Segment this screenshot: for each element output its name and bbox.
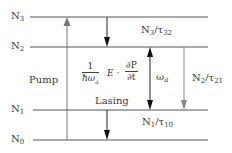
formula-fraction-1: 1 ħωa [82, 62, 99, 85]
formula-e-term: E · [107, 69, 119, 78]
level-label-n3: N3 [11, 11, 24, 23]
level-label-n1: N1 [11, 104, 24, 116]
level-label-n0: N0 [11, 134, 24, 146]
level-label-n2: N2 [11, 41, 24, 53]
formula-fraction-2: ∂P ∂t [125, 61, 138, 82]
decay-arrow-n2-n1 [181, 47, 187, 110]
omega-label: ωa [156, 72, 168, 84]
rate-label-n2-n1: N2/τ21 [192, 73, 223, 85]
rate-label-n3-n2: N3/τ32 [141, 25, 172, 37]
decay-arrow-n3-n2 [104, 17, 110, 47]
pump-arrow [64, 17, 71, 140]
lasing-double-arrow [147, 47, 153, 110]
rate-label-n1-n0: N1/τ10 [142, 117, 173, 129]
pump-label: Pump [29, 75, 58, 85]
decay-arrow-n1-n0 [104, 110, 110, 140]
lasing-label: Lasing [95, 96, 129, 106]
